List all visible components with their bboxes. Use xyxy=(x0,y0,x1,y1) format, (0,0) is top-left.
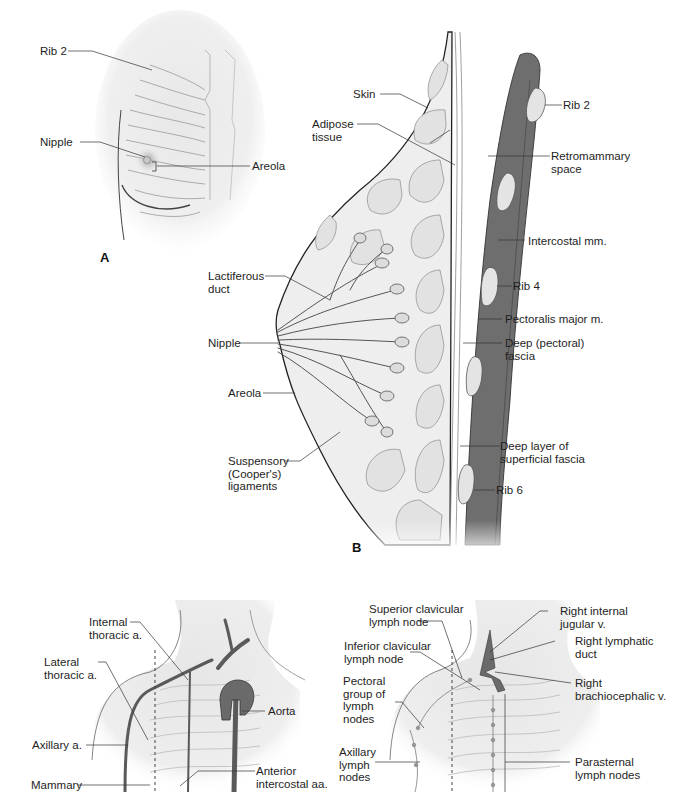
label-d-parasternal-lymph-nodes: Parasternal lymph nodes xyxy=(575,756,640,781)
label-d-right-brachiocephalic: Right brachiocephalic v. xyxy=(575,677,666,702)
label-c-mammary: Mammary xyxy=(31,779,82,792)
label-b-rib-2: Rib 2 xyxy=(563,99,590,112)
label-c-lateral-thoracic: Lateral thoracic a. xyxy=(44,656,97,681)
label-b-lactiferous-duct: Lactiferous duct xyxy=(208,270,264,295)
label-b-rib-6: Rib 6 xyxy=(496,484,523,497)
panel-b-art xyxy=(276,32,580,560)
breast-anatomy-figure: Rib 2 Nipple Areola A Skin Adipose tissu… xyxy=(0,0,695,792)
label-b-deep-layer-superficial-fascia: Deep layer of superficial fascia xyxy=(500,440,585,465)
label-b-areola: Areola xyxy=(228,387,261,400)
label-d-axillary-lymph-nodes: Axillary lymph nodes xyxy=(339,746,376,784)
label-b-pectoralis-major: Pectoralis major m. xyxy=(505,313,603,326)
label-d-right-lymphatic-duct: Right lymphatic duct xyxy=(575,635,654,660)
label-c-aorta: Aorta xyxy=(268,705,296,718)
panel-letter-b: B xyxy=(352,540,361,555)
label-d-right-internal-jugular: Right internal jugular v. xyxy=(560,605,628,630)
label-b-adipose-tissue: Adipose tissue xyxy=(312,118,354,143)
label-c-internal-thoracic: Internal thoracic a. xyxy=(89,616,142,641)
label-d-inferior-clavicular: Inferior clavicular lymph node xyxy=(344,640,431,665)
label-b-retromammary-space: Retromammary space xyxy=(551,150,630,175)
label-a-nipple: Nipple xyxy=(40,136,73,149)
label-b-nipple: Nipple xyxy=(208,337,241,350)
panel-a-art xyxy=(95,10,265,250)
label-b-deep-pectoral-fascia: Deep (pectoral) fascia xyxy=(505,337,584,362)
label-b-rib-4: Rib 4 xyxy=(513,280,540,293)
label-c-anterior-intercostal: Anterior intercostal aa. xyxy=(256,765,328,790)
panel-letter-a: A xyxy=(100,250,109,265)
label-d-pectoral-group: Pectoral group of lymph nodes xyxy=(343,675,385,725)
label-d-superior-clavicular: Superior clavicular lymph node xyxy=(369,603,464,628)
label-b-skin: Skin xyxy=(353,88,375,101)
label-a-rib-2: Rib 2 xyxy=(40,45,67,58)
label-c-axillary-a: Axillary a. xyxy=(32,739,82,752)
label-b-intercostal-mm: Intercostal mm. xyxy=(528,235,607,248)
label-a-areola: Areola xyxy=(252,160,285,173)
label-b-suspensory-ligaments: Suspensory (Cooper's) ligaments xyxy=(228,455,289,493)
